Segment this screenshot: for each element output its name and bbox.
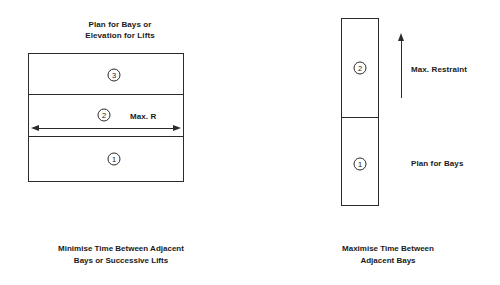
right-box-divider: [341, 117, 379, 118]
left-diagram-heading: Plan for Bays or Elevation for Lifts: [40, 19, 200, 41]
left-arrow-label: Max. R: [130, 111, 156, 122]
right-band-marker-1: 1: [354, 158, 367, 171]
right-arrow-label: Max. Restraint: [411, 64, 467, 75]
right-band-marker-2: 2: [354, 62, 367, 75]
left-box-divider-lower: [28, 136, 184, 137]
right-diagram-caption: Maximise Time Between Adjacent Bays: [288, 243, 488, 266]
vertical-arrow-head-up: [398, 33, 404, 41]
diagram-canvas: Plan for Bays or Elevation for Lifts 3 2…: [0, 0, 500, 285]
horizontal-arrow-head-right: [173, 125, 181, 131]
horizontal-double-arrow-line: [37, 128, 175, 129]
left-band-marker-2: 2: [98, 109, 111, 122]
left-diagram-caption: Minimise Time Between Adjacent Bays or S…: [16, 243, 226, 266]
right-diagram-box: [341, 18, 379, 206]
right-lower-label: Plan for Bays: [411, 158, 463, 169]
horizontal-arrow-head-left: [31, 125, 39, 131]
vertical-arrow-line: [401, 40, 402, 98]
left-box-divider-upper: [28, 94, 184, 95]
left-band-marker-1: 1: [108, 153, 121, 166]
left-band-marker-3: 3: [108, 69, 121, 82]
